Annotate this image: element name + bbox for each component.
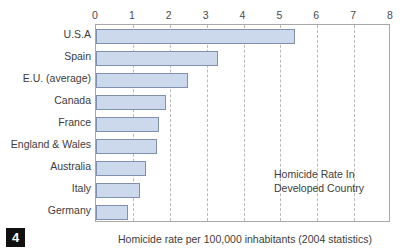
y-category-label: France bbox=[0, 116, 91, 129]
chart-annotation: Homicide Rate In Developed Country bbox=[274, 168, 364, 195]
y-category-label: Italy bbox=[0, 182, 91, 195]
bar bbox=[96, 73, 188, 88]
x-tick-label: 6 bbox=[313, 9, 319, 22]
y-category-label: Spain bbox=[0, 50, 91, 63]
x-tick-label: 4 bbox=[240, 9, 246, 22]
x-tick-label: 0 bbox=[92, 9, 98, 22]
y-category-label: E.U. (average) bbox=[0, 72, 91, 85]
annotation-line-2: Developed Country bbox=[274, 182, 364, 196]
x-axis-tick-labels: 012345678 bbox=[95, 9, 390, 23]
x-tick-label: 1 bbox=[129, 9, 135, 22]
x-tick-label: 3 bbox=[203, 9, 209, 22]
y-category-label: Canada bbox=[0, 94, 91, 107]
figure-homicide-rate: 012345678 U.S.ASpainE.U. (average)Canada… bbox=[0, 0, 406, 251]
x-tick-label: 5 bbox=[276, 9, 282, 22]
y-axis-category-labels: U.S.ASpainE.U. (average)CanadaFranceEngl… bbox=[0, 24, 91, 222]
x-tick-label: 8 bbox=[387, 9, 393, 22]
annotation-line-1: Homicide Rate In bbox=[274, 168, 364, 182]
chart-plot: 012345678 U.S.ASpainE.U. (average)Canada… bbox=[0, 0, 406, 232]
bar bbox=[96, 205, 128, 220]
figure-number-badge: 4 bbox=[6, 228, 25, 247]
y-category-label: Germany bbox=[0, 204, 91, 217]
bar bbox=[96, 139, 157, 154]
bar bbox=[96, 161, 146, 176]
bar bbox=[96, 29, 295, 44]
x-tick-label: 2 bbox=[166, 9, 172, 22]
bar bbox=[96, 95, 166, 110]
y-category-label: Australia bbox=[0, 160, 91, 173]
bar bbox=[96, 183, 140, 198]
figure-caption: Homicide rate per 100,000 inhabitants (2… bbox=[118, 232, 372, 246]
bar bbox=[96, 117, 159, 132]
x-tick-label: 7 bbox=[350, 9, 356, 22]
bar bbox=[96, 51, 218, 66]
y-category-label: U.S.A bbox=[0, 28, 91, 41]
y-category-label: England & Wales bbox=[0, 138, 91, 151]
